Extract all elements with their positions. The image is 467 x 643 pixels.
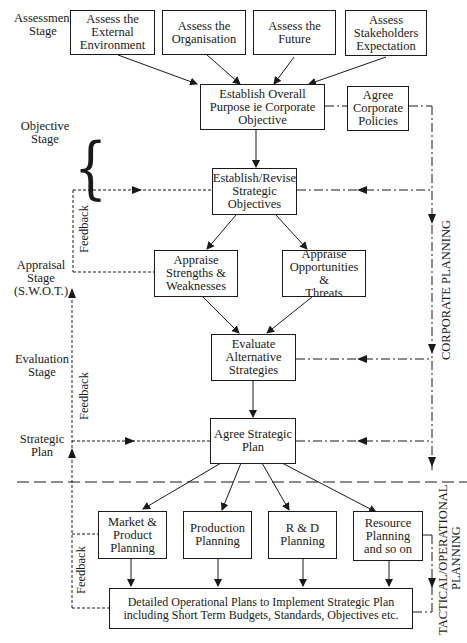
box-rd-planning: R & D Planning xyxy=(268,511,337,559)
box-market-product-planning: Market & Product Planning xyxy=(98,511,167,559)
box-evaluate-strategies: Evaluate Alternative Strategies xyxy=(211,334,296,381)
corporate-planning-label: CORPORATE PLANNING xyxy=(440,220,453,360)
feedback-label-3: Feedback xyxy=(75,546,88,594)
box-overall-purpose: Establish Overall Purpose ie Corporate O… xyxy=(200,84,325,130)
feedback-label-2: Feedback xyxy=(78,372,91,420)
strategic-planning-diagram: Assessment Stage { Objective Stage Appra… xyxy=(0,0,467,643)
box-production-planning: Production Planning xyxy=(183,511,252,559)
box-assess-future: Assess the Future xyxy=(253,10,336,55)
assessment-stage-label: Assessment Stage xyxy=(14,12,72,38)
tactical-planning-label-line2: PLANNING xyxy=(450,526,463,590)
box-agree-strategic-plan: Agree Strategic Plan xyxy=(210,418,296,464)
brace-icon: { xyxy=(74,134,107,202)
box-assess-external-environment: Assess the External Environment xyxy=(70,10,155,55)
evaluation-stage-label: Evaluation Stage xyxy=(12,353,72,379)
box-assess-organisation: Assess the Organisation xyxy=(162,10,246,55)
objective-stage-label: Objective Stage xyxy=(16,120,74,146)
box-strategic-objectives: Establish/Revise Strategic Objectives xyxy=(212,168,297,215)
feedback-label-1: Feedback xyxy=(78,205,91,253)
box-opportunities-threats: Appraise Opportunities & Threats xyxy=(282,250,366,297)
box-assess-stakeholders: Assess Stakeholders Expectation xyxy=(345,10,427,56)
box-strengths-weaknesses: Appraise Strengths & Weaknesses xyxy=(154,250,238,297)
appraisal-stage-label: Appraisal Stage (S.W.O.T.) xyxy=(10,259,72,298)
strategic-plan-stage-label: Strategic Plan xyxy=(14,433,70,459)
box-resource-planning: Resource Planning and so on xyxy=(353,511,423,561)
box-detailed-operational-plans: Detailed Operational Plans to Implement … xyxy=(109,588,413,629)
box-corporate-policies: Agree Corporate Policies xyxy=(347,86,409,131)
